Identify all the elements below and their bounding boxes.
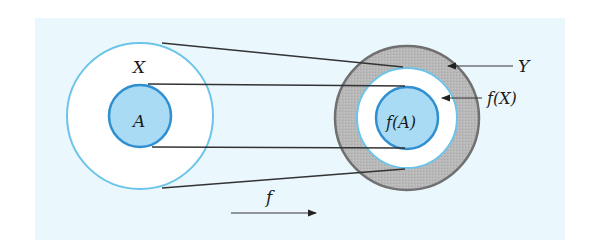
diagram-canvas: X A f(A) Y f(X) f <box>0 0 597 250</box>
label-fa: f(A) <box>385 113 416 132</box>
label-x: X <box>131 57 146 77</box>
label-fx: f(X) <box>486 89 517 108</box>
label-a: A <box>131 111 145 131</box>
label-y: Y <box>518 56 531 76</box>
